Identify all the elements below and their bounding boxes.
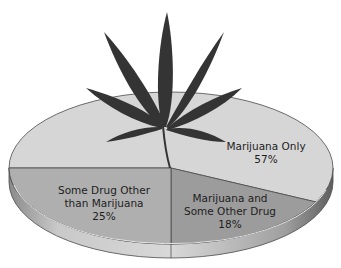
label-text: Some Drug Other bbox=[58, 184, 151, 196]
label-text: Marijuana and bbox=[193, 192, 268, 204]
label-percent: 57% bbox=[254, 153, 277, 165]
label-percent: 18% bbox=[218, 218, 241, 230]
label-text: Marijuana Only bbox=[226, 140, 305, 152]
label-text: Some Other Drug bbox=[184, 205, 276, 217]
pie-chart: Marijuana Only 57% Marijuana and Some Ot… bbox=[0, 0, 341, 268]
label-text: than Marijuana bbox=[64, 197, 143, 209]
label-percent: 25% bbox=[92, 210, 115, 222]
